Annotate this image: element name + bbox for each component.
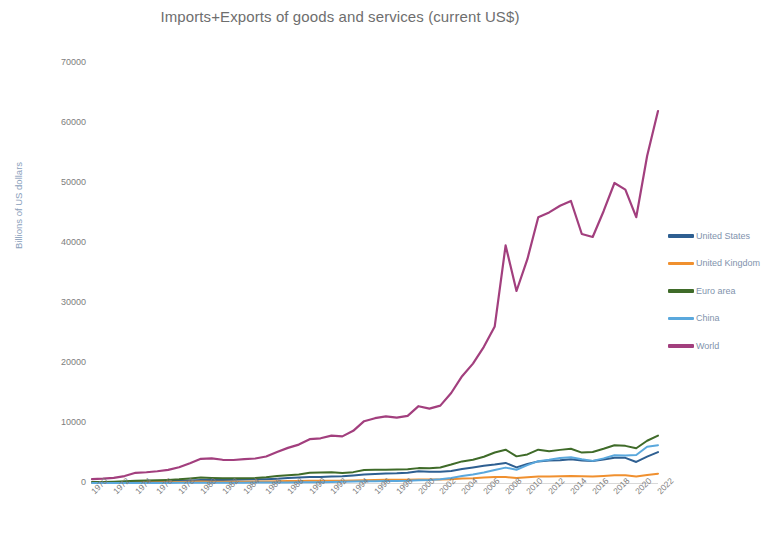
legend-item-label: Euro area — [696, 286, 736, 296]
x-axis-ticks: 1970197219741976197819801982198419861988… — [92, 483, 658, 538]
legend-item-united-states[interactable]: United States — [668, 222, 777, 250]
series-lines — [92, 63, 658, 483]
legend-item-united-kingdom[interactable]: United Kingdom — [668, 250, 777, 278]
y-axis-tick-label: 50000 — [26, 177, 86, 187]
legend-swatch-icon — [668, 344, 694, 348]
legend-item-euro-area[interactable]: Euro area — [668, 277, 777, 305]
y-axis-ticks: 700006000050000400003000020000100000 — [20, 0, 86, 538]
legend-swatch-icon — [668, 317, 694, 321]
chart-legend: United StatesUnited KingdomEuro areaChin… — [668, 222, 777, 360]
legend-swatch-icon — [668, 289, 694, 293]
series-line-world — [92, 111, 658, 479]
legend-item-label: China — [696, 313, 720, 323]
y-axis-tick-label: 0 — [26, 477, 86, 487]
chart-title: Imports+Exports of goods and services (c… — [0, 8, 680, 25]
series-line-china — [92, 445, 658, 483]
x-axis-tick-label: 2022 — [655, 476, 675, 496]
plot-area — [92, 63, 658, 483]
legend-item-label: World — [696, 341, 719, 351]
y-axis-tick-label: 40000 — [26, 237, 86, 247]
y-axis-tick-label: 60000 — [26, 117, 86, 127]
legend-item-world[interactable]: World — [668, 332, 777, 360]
legend-item-label: United States — [696, 231, 750, 241]
chart-figure: Imports+Exports of goods and services (c… — [0, 0, 777, 538]
legend-swatch-icon — [668, 262, 694, 266]
legend-swatch-icon — [668, 234, 694, 238]
legend-item-china[interactable]: China — [668, 305, 777, 333]
y-axis-tick-label: 20000 — [26, 357, 86, 367]
y-axis-tick-label: 70000 — [26, 57, 86, 67]
y-axis-tick-label: 30000 — [26, 297, 86, 307]
y-axis-tick-label: 10000 — [26, 417, 86, 427]
legend-item-label: United Kingdom — [696, 258, 760, 268]
